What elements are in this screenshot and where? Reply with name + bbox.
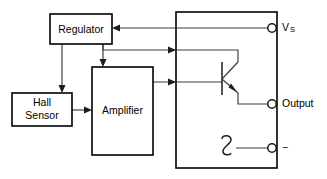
wire-regulator-to-collector bbox=[103, 44, 238, 62]
block-label-amplifier: Amplifier bbox=[102, 104, 143, 116]
arrow-into-package-collector bbox=[168, 47, 176, 54]
terminal-supply[interactable] bbox=[268, 24, 276, 32]
transistor-emitter-arrow bbox=[229, 84, 238, 93]
terminal-label-supply-subscript: S bbox=[290, 25, 295, 34]
arrow-into-amplifier bbox=[100, 59, 107, 67]
ic-package-outline bbox=[176, 12, 277, 168]
terminal-label-output: Output bbox=[282, 97, 314, 109]
hall-sensor-block-diagram: Regulator Hall Sensor Amplifier V S Outp… bbox=[0, 0, 327, 179]
wire-hop-icon bbox=[222, 136, 231, 155]
terminal-label-ground: − bbox=[282, 141, 288, 153]
wire-regulator-to-amplifier bbox=[100, 44, 107, 67]
wire-regulator-to-hall-sensor bbox=[59, 44, 66, 93]
arrow-into-hall-sensor bbox=[59, 85, 66, 93]
wire-ground-rail bbox=[222, 136, 272, 155]
block-label-regulator: Regulator bbox=[58, 23, 104, 35]
wire-emitter-to-output bbox=[238, 93, 272, 104]
terminal-output[interactable] bbox=[268, 100, 276, 108]
arrow-into-regulator bbox=[112, 25, 120, 32]
arrow-into-amplifier-input bbox=[84, 107, 92, 114]
terminal-label-supply: V bbox=[282, 21, 289, 33]
wire-hall-sensor-to-amplifier bbox=[72, 107, 92, 114]
block-label-hall-sensor-line2: Sensor bbox=[25, 109, 59, 121]
transistor-collector-lead bbox=[222, 62, 238, 79]
arrow-into-package-base bbox=[168, 79, 176, 86]
wire-supply-to-regulator bbox=[112, 25, 272, 32]
terminal-ground[interactable] bbox=[268, 144, 276, 152]
block-label-hall-sensor-line1: Hall bbox=[33, 96, 51, 108]
schematic-canvas: Regulator Hall Sensor Amplifier V S Outp… bbox=[0, 0, 327, 179]
wire-amplifier-to-base bbox=[153, 79, 222, 86]
